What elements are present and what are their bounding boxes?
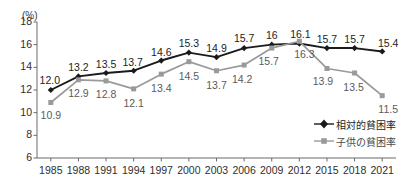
data-label-child: 14.5 [175, 70, 203, 82]
data-label-child: 14.2 [228, 73, 256, 85]
data-label-child: 15.7 [255, 55, 283, 67]
data-label-adult: 13.2 [64, 61, 92, 73]
y-tick-label: 14 [14, 60, 32, 72]
data-label-adult: 12.0 [36, 74, 64, 86]
y-tick-label: 8 [14, 128, 32, 140]
data-label-child: 13.9 [309, 75, 337, 87]
x-tick-label: 2021 [366, 164, 398, 176]
data-label-child: 12.8 [92, 88, 120, 100]
y-tick-label: 6 [14, 151, 32, 163]
data-label-adult: 15.3 [175, 37, 203, 49]
data-label-child: 12.1 [120, 97, 148, 109]
data-label-child: 11.5 [374, 103, 402, 115]
legend-label-adult: 相対的貧困率 [336, 117, 396, 132]
poverty-rate-line-chart: (%) 681012141618 19851988199119941997200… [0, 0, 407, 184]
y-tick-label: 18 [14, 15, 32, 27]
square-marker-icon [313, 135, 335, 147]
data-label-adult: 15.4 [374, 37, 402, 49]
data-label-adult: 13.5 [92, 58, 120, 70]
data-label-child: 13.5 [340, 81, 368, 93]
data-label-child: 13.4 [147, 82, 175, 94]
data-label-child: 16.3 [290, 48, 318, 60]
data-label-adult: 14.9 [203, 42, 231, 54]
chart-legend: 相対的貧困率 子供の貧困率 [313, 117, 401, 151]
data-label-adult: 13.7 [119, 56, 147, 68]
data-label-adult: 15.7 [230, 32, 258, 44]
data-label-adult: 15.7 [341, 33, 369, 45]
data-label-child: 10.9 [37, 109, 65, 121]
legend-item-adult[interactable]: 相対的貧困率 [313, 117, 401, 131]
y-tick-label: 10 [14, 106, 32, 118]
data-label-child: 13.7 [203, 79, 231, 91]
data-label-child: 12.9 [64, 87, 92, 99]
y-tick-label: 16 [14, 38, 32, 50]
diamond-marker-icon [313, 118, 335, 130]
data-label-adult: 16 [258, 29, 286, 41]
legend-label-child: 子供の貧困率 [336, 134, 396, 149]
y-tick-label: 12 [14, 83, 32, 95]
data-label-adult: 14.6 [147, 46, 175, 58]
data-label-adult: 15.7 [313, 33, 341, 45]
legend-item-child[interactable]: 子供の貧困率 [313, 134, 401, 148]
data-label-adult: 16.1 [286, 28, 314, 40]
